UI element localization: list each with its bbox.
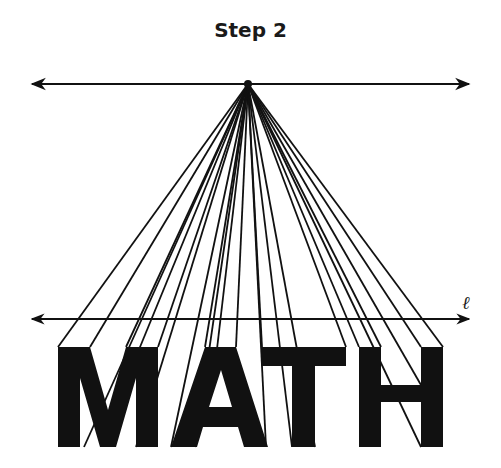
letter-a (171, 347, 268, 447)
vanishing-point (244, 80, 252, 88)
letter-h (359, 347, 443, 447)
letter-m (58, 347, 158, 447)
line-l-label: ℓ (462, 292, 470, 314)
math-letters (58, 347, 443, 447)
perspective-diagram (0, 0, 501, 468)
letter-t (262, 347, 346, 447)
